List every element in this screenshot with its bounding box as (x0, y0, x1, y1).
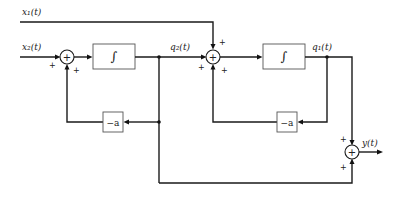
sum1-plus-glyph: + (63, 52, 71, 63)
q2-label: q₂(t) (170, 42, 190, 52)
x1-label: x₁(t) (22, 7, 42, 17)
gain-block-2: −a (277, 112, 297, 132)
summing-junction-1: + (60, 50, 74, 64)
summing-junction-output: + (345, 145, 359, 159)
integral-glyph: ∫ (281, 49, 288, 64)
integrator-block-2: ∫ (263, 44, 305, 69)
integrator-block-1: ∫ (93, 44, 135, 69)
sumout-sign-bottom: + (340, 163, 347, 172)
summing-junction-2: + (206, 50, 220, 64)
q1-label: q₁(t) (312, 42, 332, 52)
arrow-icon (87, 55, 93, 60)
block-diagram: x₁(t) x₂(t) + + + ∫ q₂(t) + + + + ∫ q₁(t… (0, 0, 397, 197)
x2-input-path (20, 55, 61, 60)
sum2-sign-left: + (198, 63, 205, 72)
arrow-icon (298, 120, 304, 125)
arrow-icon (211, 44, 216, 50)
sumout-sign-top: + (340, 135, 347, 144)
sum1-sign-left: + (49, 61, 56, 70)
sum2-sign-bottom: + (221, 66, 228, 75)
gain-block-1: −a (103, 112, 123, 132)
arrow-icon (257, 55, 263, 60)
y-output-label: y(t) (361, 138, 378, 148)
feedback1-branch-node (157, 120, 161, 124)
arrow-icon (65, 64, 70, 70)
arrow-icon (377, 150, 383, 155)
gain2-label: −a (281, 118, 295, 128)
sum2-plus-glyph: + (209, 52, 217, 63)
arrow-icon (124, 120, 130, 125)
integral-glyph: ∫ (111, 49, 118, 64)
sum1-sign-bottom: + (73, 66, 80, 75)
x2-label: x₂(t) (22, 42, 42, 52)
sumout-plus-glyph: + (348, 147, 356, 158)
arrow-icon (211, 64, 216, 70)
q2-output-path (159, 159, 355, 184)
sum2-sign-top: + (219, 38, 226, 47)
gain1-label: −a (107, 118, 121, 128)
